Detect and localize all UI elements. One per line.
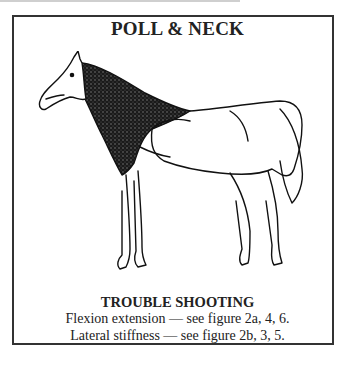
- horse-illustration: [30, 51, 330, 281]
- scan-edge: [0, 0, 240, 2]
- trouble-label: Lateral stiffness —: [70, 328, 177, 343]
- trouble-shooting-line: Flexion extension — see figure 2a, 4, 6.: [0, 311, 355, 327]
- figure-reference: see figure 2a, 4, 6.: [186, 311, 289, 326]
- trouble-shooting-line: Lateral stiffness — see figure 2b, 3, 5.: [0, 328, 355, 344]
- page-title: POLL & NECK: [0, 18, 355, 40]
- figure-reference: see figure 2b, 3, 5.: [181, 328, 285, 343]
- trouble-label: Flexion extension —: [66, 311, 183, 326]
- trouble-shooting-heading: TROUBLE SHOOTING: [0, 294, 355, 311]
